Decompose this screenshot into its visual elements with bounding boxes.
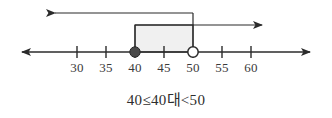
tick-label-60: 60 [231,60,271,76]
number-line-figure: 30 35 40 45 50 55 60 40≤40대<50 [0,0,332,118]
closed-endpoint-marker [130,47,140,57]
number-line-diagram [0,0,332,92]
interval-caption: 40≤40대<50 [0,88,332,109]
open-endpoint-marker [188,47,198,57]
